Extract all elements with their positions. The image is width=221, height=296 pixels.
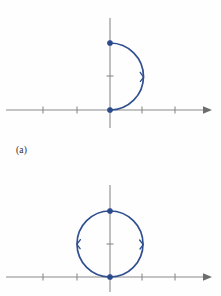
panel-b-group — [6, 185, 212, 292]
panel-b-origin-dot — [107, 274, 112, 279]
panel-b-x-axis-arrowhead — [203, 273, 212, 281]
panel-a-group — [6, 18, 212, 128]
panel-b-top-dot — [107, 208, 112, 213]
figure-root: (a) — [0, 0, 221, 296]
panel-a-upper-endpoint-dot — [107, 40, 112, 45]
panel-a-label: (a) — [16, 145, 27, 155]
panel-a-semicircle-curve — [110, 43, 143, 110]
panel-a-origin-dot — [107, 107, 112, 112]
panel-a-x-axis-arrowhead — [203, 106, 212, 114]
figure-canvas — [0, 0, 221, 296]
